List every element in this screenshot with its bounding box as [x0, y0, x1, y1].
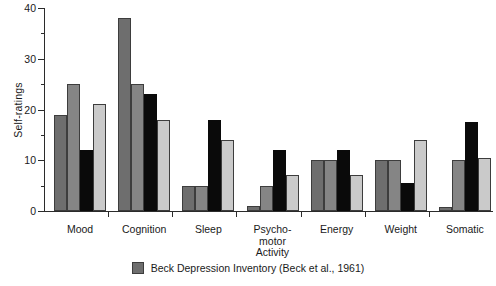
y-tick-label-20: 20	[24, 104, 36, 116]
bar	[54, 115, 67, 211]
bar	[388, 160, 401, 211]
bar-group-2	[182, 8, 234, 211]
y-tick-minor-25	[41, 84, 44, 85]
bar	[80, 150, 93, 211]
x-axis-label-3: Psycho- motor Activity	[240, 224, 304, 259]
bar	[286, 175, 299, 211]
bar-group-6	[439, 8, 491, 211]
x-axis-label-4: Energy	[305, 224, 369, 236]
y-tick-label-0: 0	[30, 205, 36, 217]
bar	[350, 175, 363, 211]
x-axis-label-1: Cognition	[112, 224, 176, 236]
y-tick-minor-35	[41, 33, 44, 34]
y-axis-title: Self-ratings	[12, 55, 24, 165]
y-tick-20	[38, 110, 44, 111]
bar	[208, 120, 221, 211]
bar-group-4	[311, 8, 363, 211]
bar-group-0	[54, 8, 106, 211]
y-tick-30	[38, 59, 44, 60]
bar-group-1	[118, 8, 170, 211]
x-axis-line	[44, 211, 493, 212]
bar	[93, 104, 106, 211]
bar	[324, 160, 337, 211]
bar	[311, 160, 324, 211]
bar	[478, 158, 491, 211]
bar	[273, 150, 286, 211]
plot-area: 010203040 MoodCognitionSleepPsycho- moto…	[44, 8, 493, 211]
bar	[157, 120, 170, 211]
bar	[131, 84, 144, 211]
bar	[375, 160, 388, 211]
bar	[221, 140, 234, 211]
x-separator-5	[429, 211, 430, 217]
bar	[118, 18, 131, 211]
bar-group-3	[247, 8, 299, 211]
y-tick-10	[38, 160, 44, 161]
x-separator-3	[301, 211, 302, 217]
y-tick-label-30: 30	[24, 53, 36, 65]
x-separator-1	[172, 211, 173, 217]
chart-legend: Beck Depression Inventory (Beck et al., …	[0, 262, 496, 274]
bar	[260, 186, 273, 211]
bar	[247, 206, 260, 211]
y-tick-40	[38, 8, 44, 9]
bar	[144, 94, 157, 211]
y-axis-line	[44, 8, 45, 212]
bar	[67, 84, 80, 211]
bar	[439, 207, 452, 211]
bar	[414, 140, 427, 211]
bar	[337, 150, 350, 211]
y-tick-minor-5	[41, 186, 44, 187]
x-axis-label-0: Mood	[48, 224, 112, 236]
y-tick-minor-15	[41, 135, 44, 136]
y-tick-label-40: 40	[24, 2, 36, 14]
legend-swatch-beck-depression-inventory	[132, 262, 144, 274]
y-tick-label-10: 10	[24, 154, 36, 166]
bar	[182, 186, 195, 211]
x-separator-4	[365, 211, 366, 217]
y-tick-0	[38, 211, 44, 212]
x-axis-label-5: Weight	[369, 224, 433, 236]
bar	[401, 183, 414, 211]
x-axis-label-6: Somatic	[433, 224, 496, 236]
x-axis-label-2: Sleep	[176, 224, 240, 236]
bar	[195, 186, 208, 211]
x-separator-2	[236, 211, 237, 217]
bar	[465, 122, 478, 211]
legend-label-beck-depression-inventory: Beck Depression Inventory (Beck et al., …	[151, 262, 365, 274]
x-separator-0	[108, 211, 109, 217]
bar	[452, 160, 465, 211]
chart-figure: Self-ratings 010203040 MoodCognitionSlee…	[0, 0, 496, 286]
bar-group-5	[375, 8, 427, 211]
